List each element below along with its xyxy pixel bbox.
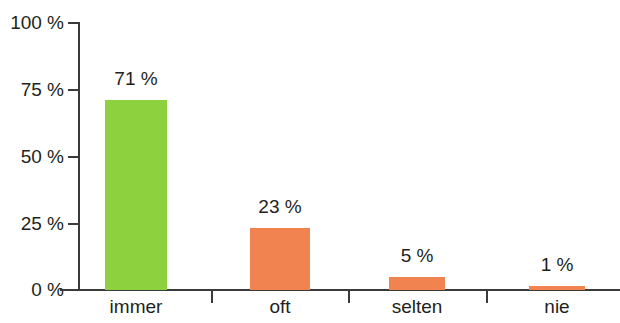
bar-value-nie: 1 %: [507, 254, 607, 276]
y-axis-tick-75: [68, 89, 79, 91]
y-axis-label-75: 75 %: [21, 79, 64, 101]
bar-value-selten: 5 %: [367, 245, 467, 267]
bar-selten: [389, 277, 445, 290]
y-axis-label-50: 50 %: [21, 146, 64, 168]
bar-nie: [529, 286, 585, 290]
y-axis-tick-25: [68, 223, 79, 225]
x-axis-tick-3: [486, 291, 488, 303]
y-axis-tick-100: [68, 22, 79, 24]
x-axis-category-selten: selten: [367, 296, 467, 318]
x-axis-tick-2: [348, 291, 350, 303]
x-axis-tick-1: [211, 291, 213, 303]
bar-chart: 100 % 75 % 50 % 25 % 0 % 71 % immer 23 %…: [0, 0, 620, 323]
y-axis-label-25: 25 %: [21, 213, 64, 235]
bar-value-immer: 71 %: [86, 68, 186, 90]
y-axis-tick-50: [68, 156, 79, 158]
x-axis-category-oft: oft: [230, 296, 330, 318]
x-axis-category-nie: nie: [507, 296, 607, 318]
bar-value-oft: 23 %: [230, 196, 330, 218]
x-axis-category-immer: immer: [86, 296, 186, 318]
bar-immer: [105, 100, 167, 290]
y-axis-label-100: 100 %: [10, 12, 64, 34]
bar-oft: [250, 228, 310, 290]
